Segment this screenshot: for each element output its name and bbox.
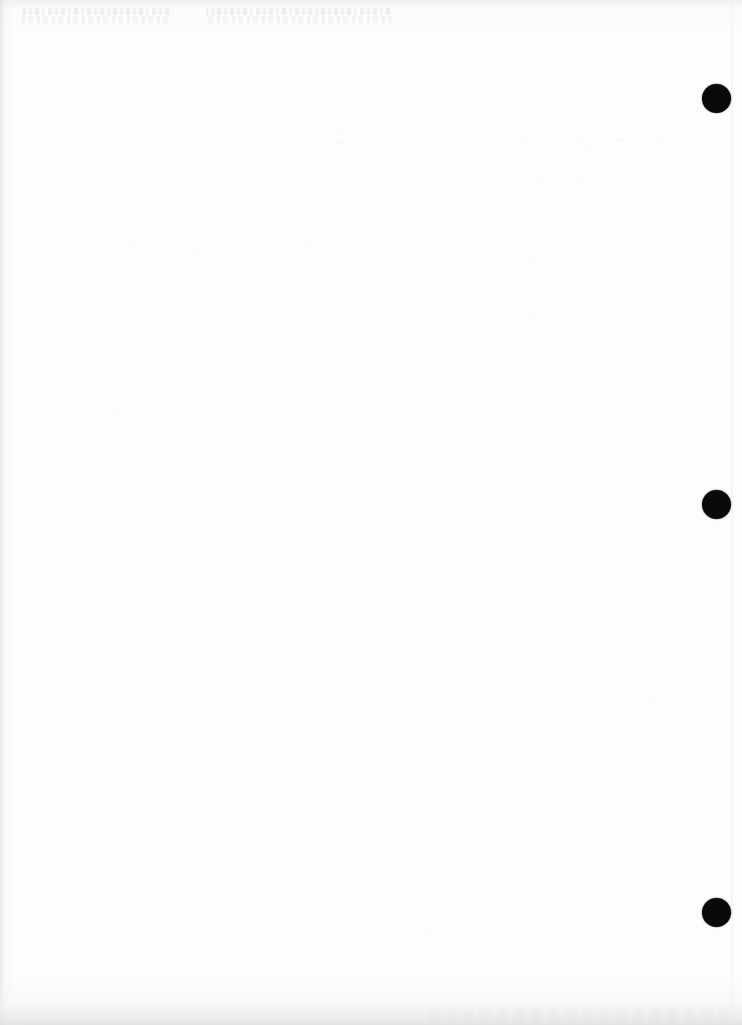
registration-dot-bottom [702,898,731,927]
registration-dot-top [702,84,731,113]
paper-grain-texture [0,0,742,1025]
paper-speck [114,412,116,414]
paper-speck [585,146,587,148]
registration-dot-middle [702,490,731,519]
paper-speck [540,177,542,179]
paper-speck [543,196,545,198]
paper-speck [660,140,662,142]
page-edge-line [731,0,733,1025]
paper-speck [580,141,582,143]
ghost-text-line-1 [22,8,392,15]
paper-speck [520,142,522,144]
ghost-text-gap [172,7,206,26]
ghost-text-line-2 [22,16,392,23]
paper-speck [337,141,340,144]
scanned-page [0,0,742,1025]
bottom-scan-smudge [430,1010,730,1023]
paper-speck [578,178,580,180]
paper-speck [630,143,632,145]
paper-speck [620,139,623,142]
paper-speck [196,251,198,253]
paper-speck [530,256,532,258]
bleed-through-text [22,8,392,25]
paper-speck [305,243,307,245]
